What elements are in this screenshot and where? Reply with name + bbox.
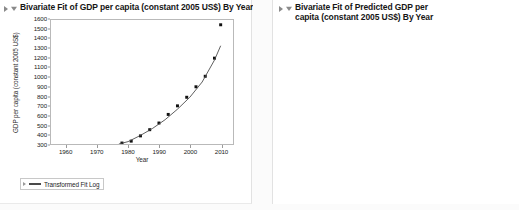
y-axis-tick-label: 1000 bbox=[34, 74, 47, 80]
y-axis-tick-label: 500 bbox=[37, 122, 47, 128]
x-axis-tick-mark bbox=[159, 145, 160, 148]
y-axis-tick-label: 1100 bbox=[34, 64, 47, 70]
x-axis-tick-mark bbox=[97, 145, 98, 148]
right-panel-header[interactable]: Bivariate Fit of Predicted GDP per capit… bbox=[279, 3, 479, 22]
y-axis-tick-label: 300 bbox=[37, 142, 47, 148]
disclosure-triangle-icon[interactable] bbox=[4, 6, 8, 12]
legend-triangle-icon[interactable] bbox=[23, 182, 26, 186]
left-chart-x-axis-label: Year bbox=[50, 156, 234, 163]
x-axis-tick-label: 1960 bbox=[59, 148, 72, 155]
right-report-panel: Bivariate Fit of Predicted GDP per capit… bbox=[272, 0, 519, 204]
left-plot-wrapper: 3004005006007008009001000110012001300140… bbox=[28, 19, 234, 145]
outline-node-icon[interactable] bbox=[286, 5, 292, 11]
y-axis-tick-label: 700 bbox=[37, 103, 47, 109]
x-axis-tick-mark bbox=[128, 145, 129, 148]
x-axis-tick-label: 2000 bbox=[184, 148, 197, 155]
left-chart-y-ticks: 3004005006007008009001000110012001300140… bbox=[28, 19, 50, 145]
left-chart-y-axis-label: GDP per capita (constant 2005 US$) bbox=[12, 22, 20, 144]
y-axis-tick-label: 1200 bbox=[34, 55, 47, 61]
y-axis-tick-label: 1600 bbox=[34, 16, 47, 22]
y-axis-tick-label: 1500 bbox=[34, 25, 47, 31]
left-report-panel: Bivariate Fit of GDP per capita (constan… bbox=[0, 0, 252, 204]
x-axis-tick-label: 1970 bbox=[90, 148, 103, 155]
report-page: Bivariate Fit of GDP per capita (constan… bbox=[0, 0, 519, 210]
right-panel-title: Bivariate Fit of Predicted GDP per capit… bbox=[295, 3, 445, 22]
left-chart-legend[interactable]: Transformed Fit Log bbox=[20, 178, 104, 190]
disclosure-triangle-icon[interactable] bbox=[279, 6, 283, 12]
left-plot-svg bbox=[51, 20, 233, 144]
gdp-per-capita-chart: GDP per capita (constant 2005 US$) 30040… bbox=[10, 16, 242, 174]
x-axis-tick-mark bbox=[66, 145, 67, 148]
x-axis-tick-mark bbox=[190, 145, 191, 148]
y-axis-tick-label: 900 bbox=[37, 84, 47, 90]
outline-node-icon[interactable] bbox=[11, 5, 17, 11]
y-axis-tick-label: 1400 bbox=[34, 35, 47, 41]
left-plot-area[interactable] bbox=[50, 19, 234, 145]
left-panel-header[interactable]: Bivariate Fit of GDP per capita (constan… bbox=[4, 3, 256, 13]
x-axis-tick-label: 1980 bbox=[121, 148, 134, 155]
legend-item-label: Transformed Fit Log bbox=[44, 181, 99, 188]
left-panel-title: Bivariate Fit of GDP per capita (constan… bbox=[20, 3, 253, 13]
x-axis-tick-label: 1990 bbox=[152, 148, 165, 155]
x-axis-tick-label: 2010 bbox=[215, 148, 228, 155]
y-axis-tick-label: 800 bbox=[37, 93, 47, 99]
fit-line bbox=[119, 46, 221, 144]
data-point-marker[interactable] bbox=[176, 104, 179, 107]
line-swatch-icon bbox=[29, 183, 41, 185]
y-axis-tick-label: 1300 bbox=[34, 45, 47, 51]
y-axis-tick-label: 600 bbox=[37, 113, 47, 119]
y-axis-tick-label: 400 bbox=[37, 132, 47, 138]
data-point-marker[interactable] bbox=[219, 23, 222, 26]
data-point-marker[interactable] bbox=[185, 96, 188, 99]
data-point-marker[interactable] bbox=[167, 113, 170, 116]
x-axis-tick-mark bbox=[222, 145, 223, 148]
